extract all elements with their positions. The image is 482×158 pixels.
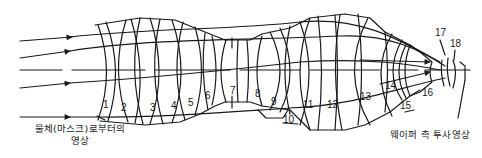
object-side-caption-line1: 물체(마스크)로부터의 [20, 123, 140, 135]
object-side-caption-line2: 영상 [20, 135, 140, 147]
wafer-side-caption-text: 웨이퍼 측 투사영상 [380, 129, 480, 141]
lens-label-16: 16 [422, 88, 433, 98]
lens-label-13: 13 [360, 92, 371, 102]
object-side-caption: 물체(마스크)로부터의 영상 [20, 123, 140, 147]
lens-label-11: 11 [303, 100, 313, 110]
lens-label-18: 18 [450, 39, 461, 49]
lens-label-2: 2 [121, 103, 127, 113]
lens-label-9: 9 [271, 97, 277, 107]
wafer-side-caption: 웨이퍼 측 투사영상 [380, 129, 480, 141]
lens-label-10: 10 [283, 115, 294, 125]
lens-label-12: 12 [327, 100, 338, 110]
lens-label-3: 3 [150, 103, 156, 113]
lens-label-4: 4 [171, 101, 177, 111]
lens-label-17: 17 [435, 28, 446, 38]
lens-label-15: 15 [400, 101, 411, 111]
lens-label-5: 5 [188, 98, 194, 108]
lens-label-7: 7 [230, 86, 236, 96]
lens-label-8: 8 [255, 89, 261, 99]
lens-label-6: 6 [205, 91, 211, 101]
lens-label-1: 1 [103, 100, 109, 110]
lens-label-14: 14 [385, 81, 396, 91]
